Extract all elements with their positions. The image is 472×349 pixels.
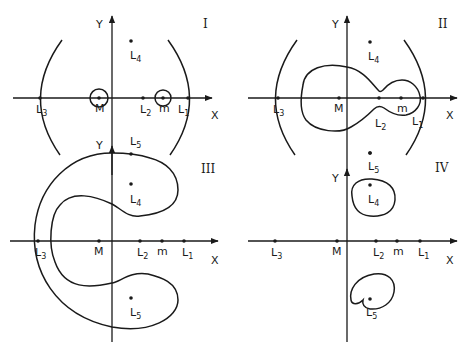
point-L1 <box>186 96 190 100</box>
point-L5-lower <box>129 296 133 300</box>
point-M <box>97 96 101 100</box>
point-L2 <box>141 96 145 100</box>
label-y-axis: Y <box>331 172 339 185</box>
label-L1: L1 <box>418 246 429 261</box>
label-M: M <box>95 102 105 115</box>
label-L3: L3 <box>35 246 46 261</box>
panel-roman-label: III <box>201 162 215 176</box>
label-L3: L3 <box>36 103 47 118</box>
label-L3: L3 <box>271 246 282 261</box>
label-x-axis: X <box>446 254 454 267</box>
label-m: m <box>393 245 404 258</box>
panel-roman-label: II <box>438 17 448 31</box>
label-L5-upper: L5 <box>130 135 141 150</box>
point-L4 <box>129 39 133 43</box>
panel-iii: L3 M L2 m L1 L4 L5 L5 Y X III <box>10 135 219 342</box>
point-m <box>395 239 399 243</box>
panel-iv: L3 M L2 m L1 L4 L5 L5 Y X IV <box>248 151 457 342</box>
point-m <box>160 239 164 243</box>
label-L1: L1 <box>182 246 193 261</box>
point-L4 <box>368 183 372 187</box>
label-L4: L4 <box>368 193 379 208</box>
label-L1: L1 <box>412 115 423 130</box>
label-x-axis: X <box>446 109 454 122</box>
label-L4: L4 <box>130 193 141 208</box>
label-L2: L2 <box>140 103 151 118</box>
point-L1 <box>182 239 186 243</box>
label-L2: L2 <box>375 117 386 132</box>
point-L5-upper <box>368 151 372 155</box>
label-L4: L4 <box>368 50 379 65</box>
point-M <box>335 239 339 243</box>
label-L4: L4 <box>130 49 141 64</box>
point-L3 <box>276 96 280 100</box>
panel-roman-label: IV <box>435 161 449 175</box>
point-L3 <box>273 239 277 243</box>
panel-ii: L3 M L2 m L1 L4 Y X II <box>248 16 457 172</box>
label-M: M <box>332 245 342 258</box>
point-L5-upper <box>129 152 133 156</box>
label-L3: L3 <box>273 103 284 118</box>
label-L5-lower: L5 <box>130 306 141 321</box>
label-L5-upper: L5 <box>368 160 379 175</box>
label-y-axis: Y <box>95 139 103 152</box>
point-L2 <box>374 239 378 243</box>
diagram-canvas: L3 M L2 m L1 L4 Y X I L3 M L2 m L1 L4 Y … <box>0 0 472 349</box>
label-x-axis: X <box>211 254 219 267</box>
point-m <box>399 96 403 100</box>
point-L2 <box>377 96 381 100</box>
point-L3 <box>38 96 42 100</box>
point-L4 <box>368 40 372 44</box>
label-x-axis: X <box>211 109 219 122</box>
label-y-axis: Y <box>95 18 103 31</box>
panel-i: L3 M L2 m L1 L4 Y X I <box>13 16 219 175</box>
point-M <box>97 239 101 243</box>
label-m: m <box>397 102 408 115</box>
point-L5-lower <box>368 297 372 301</box>
point-M <box>337 96 341 100</box>
point-L2 <box>138 239 142 243</box>
point-L3 <box>36 239 40 243</box>
label-m: m <box>157 245 168 258</box>
point-L1 <box>421 96 425 100</box>
label-M: M <box>94 245 104 258</box>
label-m: m <box>159 102 170 115</box>
label-L1: L1 <box>178 103 189 118</box>
point-L4 <box>129 182 133 186</box>
panel-roman-label: I <box>203 17 208 31</box>
point-L1 <box>418 239 422 243</box>
label-M: M <box>334 102 344 115</box>
point-m <box>161 96 165 100</box>
label-L2: L2 <box>373 246 384 261</box>
loop-around-L5 <box>351 274 395 309</box>
label-L2: L2 <box>137 246 148 261</box>
label-y-axis: Y <box>331 18 339 31</box>
